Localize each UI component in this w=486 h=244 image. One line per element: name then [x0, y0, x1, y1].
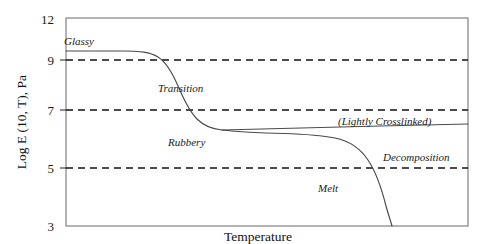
curve-uncrosslinked: [66, 51, 392, 226]
annotation-lightly-crosslinked: (Lightly Crosslinked): [338, 115, 432, 128]
annotation-decomposition: Decomposition: [382, 151, 450, 163]
y-axis-ticks: [60, 60, 66, 168]
y-axis-title: Log E (10, T), Pa: [14, 75, 29, 169]
y-tick-label-9: 9: [48, 53, 55, 68]
y-tick-label-12: 12: [41, 12, 54, 27]
annotation-rubbery: Rubbery: [167, 136, 205, 148]
chart-figure: 12 9 7 5 3 Log E (10, T), Pa Temperature…: [0, 0, 486, 244]
x-axis-title: Temperature: [224, 229, 292, 244]
y-tick-label-7: 7: [48, 103, 55, 118]
y-tick-label-5: 5: [48, 161, 55, 176]
annotation-glassy: Glassy: [64, 35, 94, 47]
annotation-transition: Transition: [158, 82, 204, 94]
annotation-melt: Melt: [317, 182, 339, 194]
modulus-temperature-plot: 12 9 7 5 3 Log E (10, T), Pa Temperature…: [0, 0, 486, 244]
y-tick-label-3: 3: [48, 219, 55, 234]
